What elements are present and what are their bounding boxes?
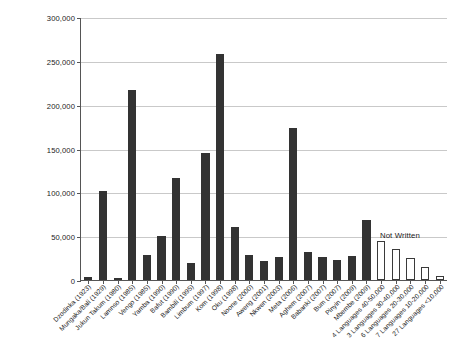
bar-slot xyxy=(403,18,418,280)
bar-slot xyxy=(154,18,169,280)
y-tick-label: 300,000 xyxy=(47,14,75,23)
bar[interactable] xyxy=(421,267,429,280)
bar-slot xyxy=(345,18,360,280)
bar-slot xyxy=(110,18,125,280)
bar-slot xyxy=(286,18,301,280)
bar[interactable] xyxy=(201,153,209,280)
bar-slot xyxy=(374,18,389,280)
chart-annotation-not-written: Not Written xyxy=(380,231,420,240)
bar[interactable] xyxy=(289,128,297,280)
bar-slot xyxy=(81,18,96,280)
bar-slot xyxy=(432,18,447,280)
bar-slot xyxy=(359,18,374,280)
bar[interactable] xyxy=(260,261,268,280)
bar-slot xyxy=(418,18,433,280)
bar[interactable] xyxy=(216,54,224,280)
bar-slot xyxy=(140,18,155,280)
y-tick-label: 200,000 xyxy=(47,101,75,110)
bar[interactable] xyxy=(231,227,239,280)
bar[interactable] xyxy=(333,260,341,280)
bar-slot xyxy=(330,18,345,280)
bar-slot xyxy=(96,18,111,280)
bar-slot xyxy=(257,18,272,280)
y-tick-label: 100,000 xyxy=(47,189,75,198)
bar-slot xyxy=(183,18,198,280)
y-tick-label: 50,000 xyxy=(51,233,75,242)
bar[interactable] xyxy=(275,257,283,280)
bar[interactable] xyxy=(406,258,414,280)
bar-slot xyxy=(227,18,242,280)
bar[interactable] xyxy=(187,263,195,280)
bar-slot xyxy=(169,18,184,280)
plot-area: 050,000100,000150,000200,000250,000300,0… xyxy=(80,18,447,281)
bar-slot xyxy=(198,18,213,280)
bars-group xyxy=(81,18,447,280)
bar-slot xyxy=(301,18,316,280)
bar[interactable] xyxy=(348,256,356,280)
bar[interactable] xyxy=(304,252,312,280)
y-tick-label: 0 xyxy=(71,277,75,286)
bar[interactable] xyxy=(392,249,400,280)
x-axis-labels-group: Dzodinka (1923)Mungaka/Bali (1929)Jukun … xyxy=(80,283,447,364)
bar-slot xyxy=(271,18,286,280)
bar[interactable] xyxy=(99,191,107,280)
y-tick-mark xyxy=(77,281,81,282)
bar-slot xyxy=(125,18,140,280)
bar-slot xyxy=(242,18,257,280)
bar[interactable] xyxy=(245,255,253,280)
bar-slot xyxy=(213,18,228,280)
bar[interactable] xyxy=(362,220,370,280)
bar[interactable] xyxy=(128,90,136,280)
bar-chart: Number of Mother Tongue Speakers 050,000… xyxy=(0,0,457,364)
y-tick-label: 150,000 xyxy=(47,145,75,154)
bar-slot xyxy=(388,18,403,280)
bar[interactable] xyxy=(318,257,326,280)
y-tick-label: 250,000 xyxy=(47,57,75,66)
bar[interactable] xyxy=(143,255,151,280)
bar[interactable] xyxy=(172,178,180,280)
bar[interactable] xyxy=(157,236,165,280)
bar-slot xyxy=(315,18,330,280)
bar[interactable] xyxy=(377,241,385,280)
